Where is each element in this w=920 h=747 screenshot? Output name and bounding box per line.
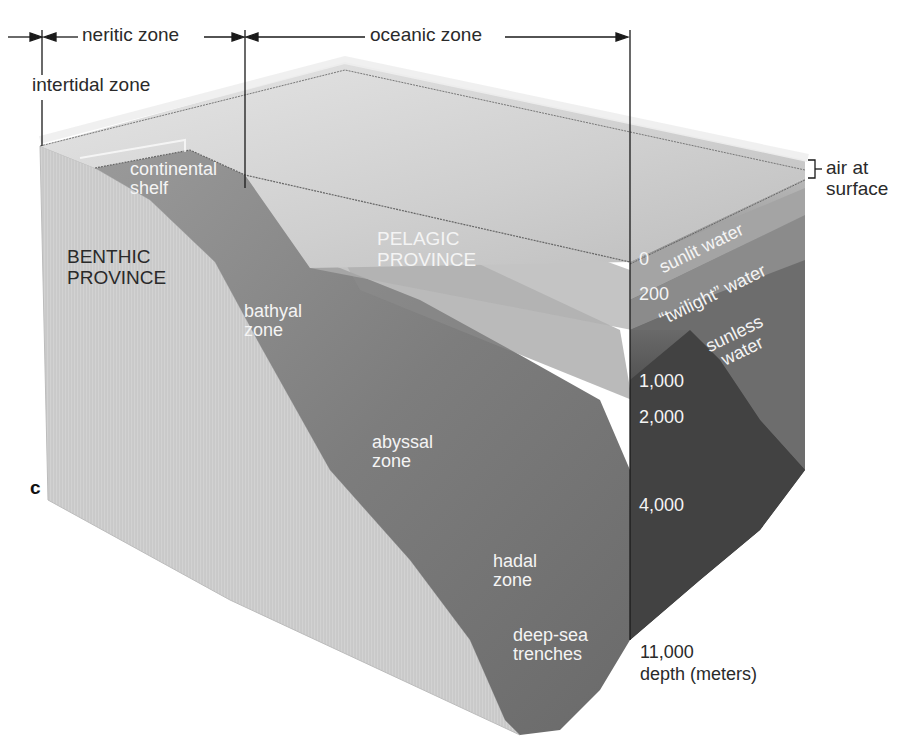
air-at-surface-label: air at surface [826, 158, 888, 199]
continental-shelf-label: continental shelf [130, 160, 217, 199]
ocean-block-illustration [0, 0, 920, 747]
depth-tick-2000: 2,000 [639, 408, 684, 427]
oceanic-zone-label: oceanic zone [370, 25, 482, 46]
depth-tick-0: 0 [639, 250, 649, 269]
panel-label: c [30, 478, 41, 499]
abyssal-zone-label: abyssal zone [372, 433, 433, 472]
depth-unit-label: depth (meters) [640, 665, 757, 684]
neritic-zone-label: neritic zone [82, 25, 179, 46]
depth-tick-11000: 11,000 [640, 643, 694, 662]
benthic-province-label: BENTHIC PROVINCE [67, 247, 166, 288]
ocean-zones-diagram: neritic zone oceanic zone intertidal zon… [0, 0, 920, 747]
depth-tick-1000: 1,000 [639, 372, 684, 391]
hadal-zone-label: hadal zone [493, 552, 537, 591]
bathyal-zone-label: bathyal zone [244, 302, 302, 341]
pelagic-province-label: PELAGIC PROVINCE [377, 229, 476, 270]
depth-tick-200: 200 [639, 285, 669, 304]
depth-tick-4000: 4,000 [639, 496, 684, 515]
deep-sea-trenches-label: deep-sea trenches [513, 626, 588, 665]
intertidal-zone-label: intertidal zone [32, 75, 152, 96]
